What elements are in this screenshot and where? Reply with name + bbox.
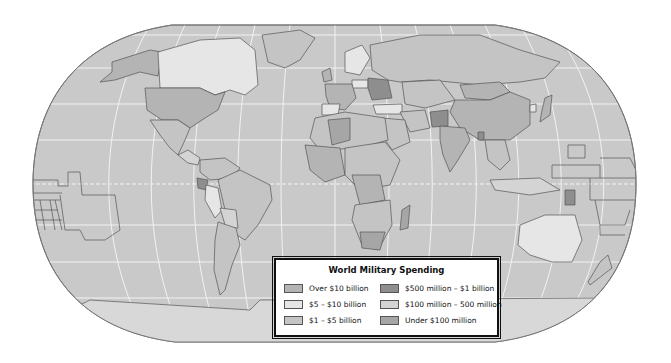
country-poland bbox=[352, 80, 368, 88]
country-ukraine-belarus bbox=[368, 78, 392, 100]
country-algeria bbox=[328, 118, 350, 145]
country-turkey bbox=[373, 104, 402, 114]
legend-item-100m-to-500m: $100 million – 500 million bbox=[380, 298, 502, 310]
legend-swatch bbox=[284, 316, 303, 325]
legend-item-5-to-10-billion: $5 – $10 billion bbox=[284, 298, 366, 310]
legend-item-over-10-billion: Over $10 billion bbox=[284, 282, 369, 294]
legend-label: $500 million – $1 billion bbox=[405, 284, 494, 293]
legend-item-500m-to-1b: $500 million – $1 billion bbox=[380, 282, 494, 294]
country-bangladesh bbox=[478, 132, 484, 140]
legend-swatch bbox=[284, 284, 303, 293]
map-legend: World Military Spending Over $10 billion… bbox=[274, 258, 499, 337]
legend-label: $100 million – 500 million bbox=[405, 300, 502, 309]
legend-swatch bbox=[380, 316, 399, 325]
legend-label: $1 – $5 billion bbox=[309, 316, 361, 325]
country-korea bbox=[530, 104, 536, 112]
legend-label: $5 – $10 billion bbox=[309, 300, 366, 309]
legend-swatch bbox=[380, 284, 399, 293]
country-afghanistan bbox=[430, 110, 448, 127]
legend-item-1-to-5-billion: $1 – $5 billion bbox=[284, 314, 361, 326]
country-papua-new-guinea bbox=[565, 190, 575, 205]
legend-title: World Military Spending bbox=[276, 265, 497, 275]
legend-item-under-100m: Under $100 million bbox=[380, 314, 477, 326]
legend-swatch bbox=[380, 300, 399, 309]
legend-label: Over $10 billion bbox=[309, 284, 369, 293]
legend-label: Under $100 million bbox=[405, 316, 477, 325]
legend-swatch bbox=[284, 300, 303, 309]
